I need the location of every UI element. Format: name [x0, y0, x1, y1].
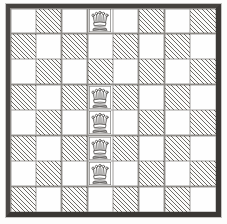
- queen-crown-icon[interactable]: [89, 137, 112, 160]
- board-square-r1-c0[interactable]: [11, 34, 36, 59]
- board-square-r0-c0[interactable]: [11, 9, 36, 34]
- square-border: [165, 34, 190, 59]
- board-square-r0-c7[interactable]: [190, 9, 215, 34]
- square-border: [62, 110, 87, 135]
- board-square-r1-c2[interactable]: [62, 34, 87, 59]
- board-square-r6-c1[interactable]: [36, 161, 61, 186]
- square-border: [36, 136, 61, 161]
- board-square-r2-c3[interactable]: [88, 59, 113, 84]
- square-border: [165, 187, 190, 212]
- square-border: [113, 59, 138, 84]
- board-square-r7-c4[interactable]: [113, 187, 138, 212]
- square-border: [190, 34, 215, 59]
- square-border: [165, 85, 190, 110]
- square-border: [113, 34, 138, 59]
- board-square-r6-c5[interactable]: [139, 161, 164, 186]
- board-square-r4-c6[interactable]: [165, 110, 190, 135]
- board-square-r2-c5[interactable]: [139, 59, 164, 84]
- board-square-r7-c3[interactable]: [88, 187, 113, 212]
- board-square-r1-c6[interactable]: [165, 34, 190, 59]
- square-border: [165, 136, 190, 161]
- board-square-r2-c2[interactable]: [62, 59, 87, 84]
- board-square-r2-c6[interactable]: [165, 59, 190, 84]
- board-square-r4-c3[interactable]: [88, 110, 113, 135]
- board-square-r7-c7[interactable]: [190, 187, 215, 212]
- board-square-r4-c7[interactable]: [190, 110, 215, 135]
- square-border: [11, 9, 36, 34]
- board-square-r1-c4[interactable]: [113, 34, 138, 59]
- board-square-r5-c0[interactable]: [11, 136, 36, 161]
- board-square-r7-c2[interactable]: [62, 187, 87, 212]
- square-border: [113, 85, 138, 110]
- square-border: [88, 187, 113, 212]
- board-square-r0-c6[interactable]: [165, 9, 190, 34]
- board-square-r2-c0[interactable]: [11, 59, 36, 84]
- queen-crown-icon[interactable]: [89, 112, 112, 135]
- board-square-r7-c0[interactable]: [11, 187, 36, 212]
- board-square-r1-c7[interactable]: [190, 34, 215, 59]
- board-square-r3-c4[interactable]: [113, 85, 138, 110]
- board-square-r3-c7[interactable]: [190, 85, 215, 110]
- board-square-r3-c6[interactable]: [165, 85, 190, 110]
- board-square-r7-c5[interactable]: [139, 187, 164, 212]
- board-square-r6-c2[interactable]: [62, 161, 87, 186]
- board-square-r2-c1[interactable]: [36, 59, 61, 84]
- board-square-r5-c3[interactable]: [88, 136, 113, 161]
- board-square-r5-c6[interactable]: [165, 136, 190, 161]
- board-square-r6-c0[interactable]: [11, 161, 36, 186]
- board-square-r0-c3[interactable]: [88, 9, 113, 34]
- board-square-r2-c7[interactable]: [190, 59, 215, 84]
- board-square-r2-c4[interactable]: [113, 59, 138, 84]
- board-square-r3-c2[interactable]: [62, 85, 87, 110]
- board-grid[interactable]: [10, 8, 216, 212]
- square-border: [165, 59, 190, 84]
- board-square-r4-c4[interactable]: [113, 110, 138, 135]
- square-border: [36, 110, 61, 135]
- board-frame: [6, 4, 221, 217]
- square-border: [113, 136, 138, 161]
- square-border: [36, 34, 61, 59]
- board-square-r4-c0[interactable]: [11, 110, 36, 135]
- queen-crown-icon[interactable]: [89, 163, 112, 186]
- board-square-r3-c3[interactable]: [88, 85, 113, 110]
- square-border: [36, 187, 61, 212]
- board-square-r1-c3[interactable]: [88, 34, 113, 59]
- queen-crown-icon[interactable]: [89, 86, 112, 109]
- square-border: [36, 161, 61, 186]
- board-square-r6-c6[interactable]: [165, 161, 190, 186]
- board-square-r1-c1[interactable]: [36, 34, 61, 59]
- square-border: [165, 110, 190, 135]
- board-square-r0-c4[interactable]: [113, 9, 138, 34]
- board-square-r5-c5[interactable]: [139, 136, 164, 161]
- board-square-r3-c0[interactable]: [11, 85, 36, 110]
- square-border: [190, 161, 215, 186]
- board-square-r6-c4[interactable]: [113, 161, 138, 186]
- board-square-r3-c5[interactable]: [139, 85, 164, 110]
- board-square-r5-c1[interactable]: [36, 136, 61, 161]
- board-square-r6-c3[interactable]: [88, 161, 113, 186]
- square-border: [190, 9, 215, 34]
- square-border: [165, 9, 190, 34]
- square-border: [139, 9, 164, 34]
- square-border: [62, 187, 87, 212]
- square-border: [139, 34, 164, 59]
- board-square-r4-c5[interactable]: [139, 110, 164, 135]
- board-square-r0-c1[interactable]: [36, 9, 61, 34]
- square-border: [11, 59, 36, 84]
- board-square-r7-c1[interactable]: [36, 187, 61, 212]
- board-square-r5-c7[interactable]: [190, 136, 215, 161]
- board-square-r0-c2[interactable]: [62, 9, 87, 34]
- board-square-r0-c5[interactable]: [139, 9, 164, 34]
- board-square-r6-c7[interactable]: [190, 161, 215, 186]
- board-square-r7-c6[interactable]: [165, 187, 190, 212]
- board-square-r1-c5[interactable]: [139, 34, 164, 59]
- board-square-r4-c2[interactable]: [62, 110, 87, 135]
- board-square-r5-c2[interactable]: [62, 136, 87, 161]
- square-border: [36, 85, 61, 110]
- board-square-r3-c1[interactable]: [36, 85, 61, 110]
- queen-crown-icon[interactable]: [89, 10, 112, 33]
- square-border: [62, 161, 87, 186]
- board-square-r4-c1[interactable]: [36, 110, 61, 135]
- board-square-r5-c4[interactable]: [113, 136, 138, 161]
- square-border: [88, 34, 113, 59]
